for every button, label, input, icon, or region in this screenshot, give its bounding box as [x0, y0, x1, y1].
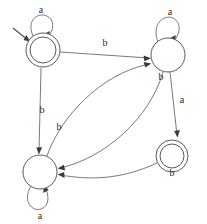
label-edge-q2-q1: b	[57, 121, 62, 132]
edge-path-q1-q3	[170, 72, 177, 135]
label-edge-q3-q2: b	[170, 167, 175, 178]
label-self-loop-q2: a	[38, 210, 43, 221]
arrow-head-q0-q2	[36, 147, 42, 154]
state-q1-outer	[151, 38, 185, 72]
state-q1[interactable]	[151, 38, 185, 72]
label-edge-q0-q1: b	[103, 37, 108, 48]
edge-path-q1-q2	[60, 72, 163, 168]
label-edge-q0-q2: b	[40, 104, 45, 115]
label-self-loop-q0: a	[39, 4, 44, 15]
label-edge-q1-q2: b	[159, 71, 164, 82]
state-q2-outer	[23, 155, 57, 189]
transition-q0-q1	[60, 52, 151, 61]
label-self-loop-q1: a	[168, 6, 173, 17]
edge-path-q0-q1	[60, 52, 149, 58]
state-q0[interactable]	[26, 33, 60, 67]
automaton-diagram: a a a b b b b a b	[0, 0, 207, 224]
edge-path-q2-q1	[47, 64, 149, 156]
state-diagram-svg: a a a b b b b a b	[0, 0, 207, 224]
arrow-head-q1-q3	[174, 130, 180, 138]
transition-q1-q2	[58, 72, 163, 171]
arrow-head-q1-q2	[58, 165, 66, 171]
transition-q1-q3	[170, 72, 180, 138]
transition-q2-q1	[47, 62, 151, 156]
state-q0-outer	[26, 33, 60, 67]
transition-q3-q2	[58, 163, 157, 178]
state-q2[interactable]	[23, 155, 57, 189]
arrow-head-q3-q2	[58, 172, 65, 178]
label-edge-q1-q3: a	[180, 94, 185, 105]
start-arrow	[13, 28, 30, 42]
arrow-head-q2-q1	[144, 62, 152, 68]
arrow-head-q0-q1	[144, 55, 151, 61]
edge-path-q3-q2	[60, 163, 157, 178]
